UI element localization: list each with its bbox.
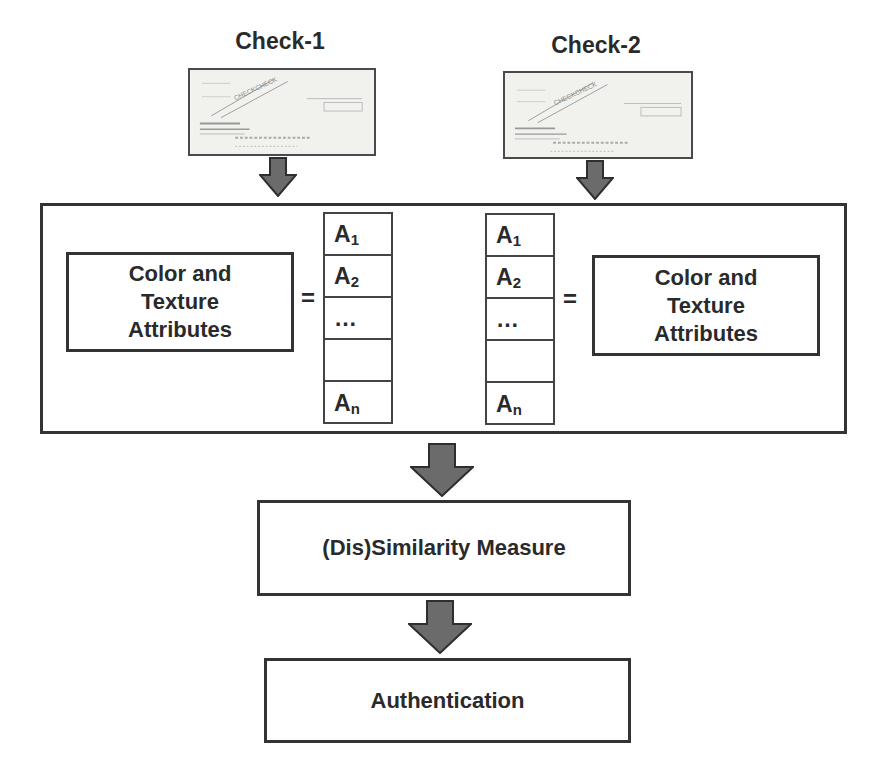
right-attribute-vector: A1 A2 … An	[485, 213, 555, 425]
check-image-icon: CHECKCHECK	[505, 73, 691, 157]
vector-cell: An	[487, 383, 553, 425]
left-attribute-vector: A1 A2 … An	[323, 212, 393, 424]
vector-cell: …	[487, 299, 553, 341]
authentication-box: Authentication	[264, 658, 631, 743]
arrow-down-icon	[408, 600, 472, 654]
check-1-title: Check-1	[180, 28, 380, 55]
arrow-down-icon	[410, 443, 474, 497]
left-equals-sign: =	[301, 284, 315, 312]
check-1-image: CHECKCHECK	[188, 68, 376, 156]
vector-cell: …	[325, 298, 391, 340]
vector-cell	[487, 341, 553, 383]
check-2-image: CHECKCHECK	[503, 71, 693, 159]
arrow-down-icon	[576, 160, 614, 200]
right-equals-sign: =	[563, 285, 577, 313]
vector-cell	[325, 340, 391, 382]
vector-cell: An	[325, 382, 391, 424]
vector-cell: A2	[487, 257, 553, 299]
check-image-icon: CHECKCHECK	[190, 70, 374, 154]
vector-cell: A1	[325, 214, 391, 256]
vector-cell: A1	[487, 215, 553, 257]
similarity-measure-box: (Dis)Similarity Measure	[257, 500, 631, 596]
arrow-down-icon	[259, 157, 297, 197]
left-attributes-box: Color and Texture Attributes	[66, 252, 294, 352]
right-attributes-box: Color and Texture Attributes	[592, 255, 820, 356]
check-2-title: Check-2	[496, 32, 696, 59]
vector-cell: A2	[325, 256, 391, 298]
